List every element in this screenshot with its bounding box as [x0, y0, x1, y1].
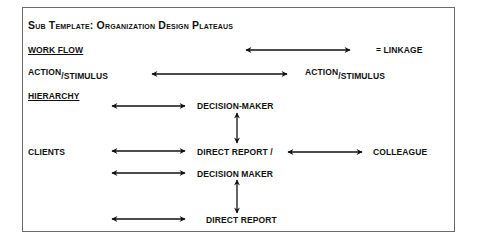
- diagram-frame: [22, 7, 455, 232]
- clients-label: CLIENTS: [28, 148, 65, 157]
- stimulus-label: STIMULUS: [341, 71, 385, 81]
- action-stimulus-right: ACTION/STIMULUS: [305, 68, 385, 77]
- action-label: ACTION: [305, 67, 338, 77]
- colleague-label: COLLEAGUE: [373, 148, 427, 157]
- linkage-legend-label: = LINKAGE: [376, 46, 422, 55]
- hierarchy-label: HIERARCHY: [28, 92, 79, 101]
- node-decision-maker: DECISION-MAKER: [197, 102, 274, 111]
- node-direct-report-slash: DIRECT REPORT /: [197, 148, 273, 157]
- work-flow-label: WORK FLOW: [28, 46, 83, 55]
- node-direct-report: DIRECT REPORT: [206, 216, 277, 225]
- action-label: ACTION: [28, 67, 61, 77]
- node-decision-maker-2: DECISION MAKER: [197, 170, 273, 179]
- stimulus-label: STIMULUS: [64, 71, 108, 81]
- action-stimulus-left: ACTION/STIMULUS: [28, 68, 108, 77]
- diagram-title: Sub Template: Organization Design Platea…: [28, 20, 233, 31]
